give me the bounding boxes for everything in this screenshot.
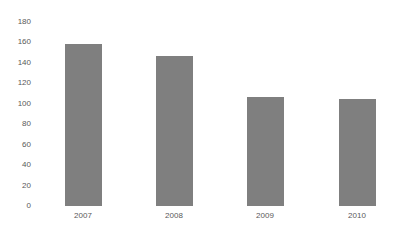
y-tick-label: 20 <box>0 181 31 191</box>
y-tick-label: 140 <box>0 58 31 68</box>
y-tick-label: 180 <box>0 17 31 27</box>
x-tick-label: 2008 <box>154 211 194 221</box>
x-tick-label: 2007 <box>63 211 103 221</box>
y-tick-label: 160 <box>0 37 31 47</box>
y-tick-label: 60 <box>0 140 31 150</box>
bar-2007 <box>65 44 102 206</box>
bar-2008 <box>156 56 193 206</box>
y-tick-label: 0 <box>0 201 31 211</box>
y-tick-label: 80 <box>0 119 31 129</box>
x-tick-label: 2009 <box>245 211 285 221</box>
bar-chart: 0204060801001201401601802007200820092010 <box>0 0 395 241</box>
x-tick-label: 2010 <box>337 211 377 221</box>
y-tick-label: 100 <box>0 99 31 109</box>
bar-2010 <box>339 99 376 206</box>
y-tick-label: 120 <box>0 78 31 88</box>
y-tick-label: 40 <box>0 160 31 170</box>
bar-2009 <box>247 97 284 206</box>
